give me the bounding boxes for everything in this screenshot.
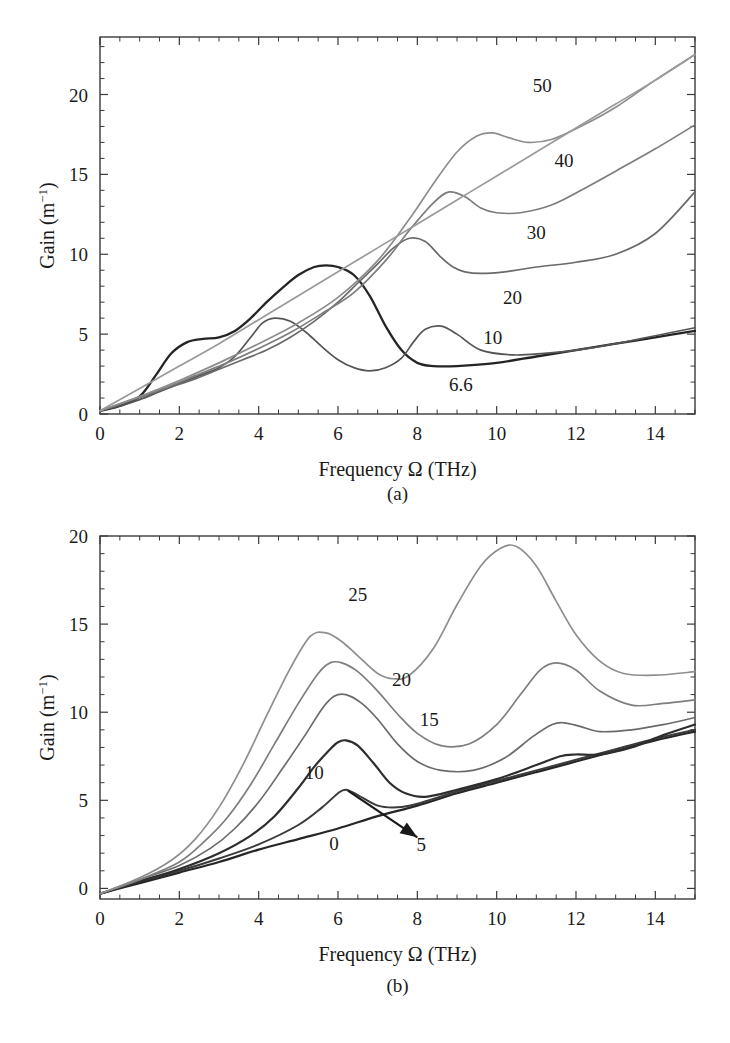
x-tick-label: 2 [175, 908, 185, 929]
plot-frame [100, 37, 695, 414]
figure-gain-vs-frequency: 0246810121405101520Frequency Ω (THz)Gain… [0, 0, 730, 1043]
curve-10 [100, 318, 695, 411]
x-axis-title: Frequency Ω (THz) [318, 458, 476, 481]
curve-40 [100, 55, 695, 411]
x-axis-title: Frequency Ω (THz) [318, 943, 476, 966]
x-tick-label: 10 [487, 423, 506, 444]
curve-label-40: 40 [555, 150, 574, 171]
x-tick-label: 6 [333, 908, 343, 929]
x-tick-label: 12 [567, 423, 586, 444]
x-tick-label: 12 [567, 908, 586, 929]
y-axis-title: Gain (m−1) [35, 182, 59, 269]
x-tick-label: 4 [254, 908, 264, 929]
curve-group [100, 545, 695, 894]
y-tick-label: 5 [79, 324, 89, 345]
y-axis-title: Gain (m−1) [35, 674, 59, 761]
y-tick-label: 15 [69, 614, 88, 635]
x-tick-label: 14 [646, 423, 666, 444]
curve-label-6-6: 6.6 [449, 374, 473, 395]
x-tick-label: 4 [254, 423, 264, 444]
panel-b-plot: 0246810121405101520Frequency Ω (THz)Gain… [0, 500, 730, 1043]
curve-label-25: 25 [348, 584, 367, 605]
curve-6-6 [100, 265, 695, 410]
curve-label-20: 20 [503, 287, 522, 308]
curve-25 [100, 545, 695, 894]
curve-label-30: 30 [527, 222, 546, 243]
x-tick-label: 10 [487, 908, 506, 929]
panel-a-plot: 0246810121405101520Frequency Ω (THz)Gain… [0, 0, 730, 520]
curve-label-15: 15 [420, 709, 439, 730]
x-tick-label: 6 [333, 423, 343, 444]
y-tick-label: 20 [69, 85, 88, 106]
y-tick-label: 10 [69, 702, 88, 723]
annotation-arrow-head [400, 822, 418, 837]
curve-30 [100, 125, 695, 411]
y-tick-label: 0 [79, 404, 89, 425]
y-tick-label: 15 [69, 164, 88, 185]
y-tick-label: 20 [69, 526, 88, 547]
panel-a: 0246810121405101520Frequency Ω (THz)Gain… [0, 0, 730, 520]
y-tick-label: 10 [69, 244, 88, 265]
x-tick-label: 0 [95, 908, 105, 929]
curve-label-10: 10 [483, 327, 502, 348]
curve-label-50: 50 [533, 75, 552, 96]
curve-label-5: 5 [417, 834, 427, 855]
panel-caption: (b) [386, 975, 408, 997]
curve-20 [100, 662, 695, 894]
y-tick-label: 0 [79, 878, 89, 899]
curve-label-0: 0 [329, 833, 339, 854]
x-tick-label: 2 [175, 423, 185, 444]
x-tick-label: 0 [95, 423, 105, 444]
x-tick-label: 8 [413, 908, 423, 929]
curve-50 [100, 55, 695, 411]
curve-group [100, 55, 695, 411]
panel-b: 0246810121405101520Frequency Ω (THz)Gain… [0, 500, 730, 1043]
curve-label-10: 10 [305, 762, 324, 783]
x-tick-label: 8 [413, 423, 423, 444]
y-tick-label: 5 [79, 790, 89, 811]
curve-label-20: 20 [392, 669, 411, 690]
curve-0 [100, 732, 695, 894]
x-tick-label: 14 [646, 908, 666, 929]
curve-15 [100, 694, 695, 894]
